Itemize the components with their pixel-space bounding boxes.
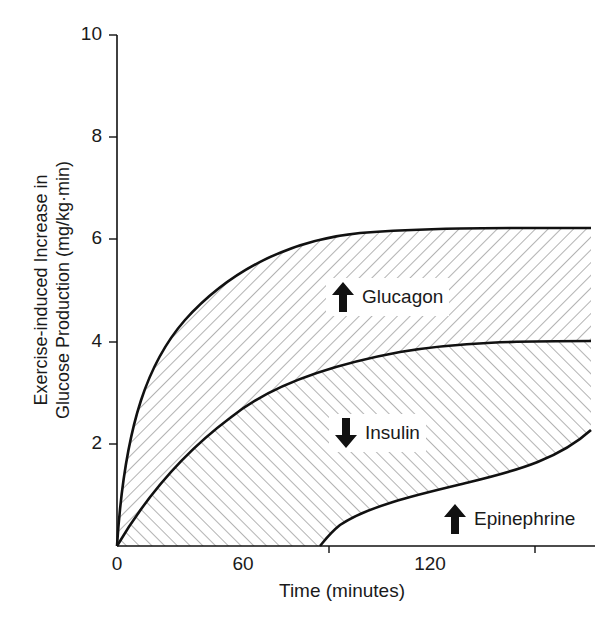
arrow-up-icon: [332, 282, 354, 312]
glucagon-label-text: Glucagon: [362, 286, 443, 308]
x-axis-title: Time (minutes): [279, 580, 405, 602]
arrow-down-icon: [335, 418, 357, 448]
y-axis-title: Exercise-induced Increase in Glucose Pro…: [30, 161, 74, 419]
insulin-label-text: Insulin: [365, 422, 420, 444]
y-tick-label: 10: [62, 23, 102, 45]
y-tick-label: 8: [62, 125, 102, 147]
insulin-label: Insulin: [329, 414, 426, 452]
glucagon-label: Glucagon: [326, 278, 449, 316]
x-tick-label: 0: [87, 553, 147, 575]
arrow-up-icon: [444, 504, 466, 534]
x-tick-label: 120: [400, 553, 460, 575]
y-axis-title-line2: Glucose Production (mg/kg·min): [52, 161, 74, 419]
epinephrine-label-text: Epinephrine: [474, 508, 575, 530]
y-tick-label: 2: [62, 432, 102, 454]
epinephrine-label: Epinephrine: [438, 500, 581, 538]
y-axis-title-line1: Exercise-induced Increase in: [30, 161, 52, 419]
x-tick-label: 60: [213, 553, 273, 575]
